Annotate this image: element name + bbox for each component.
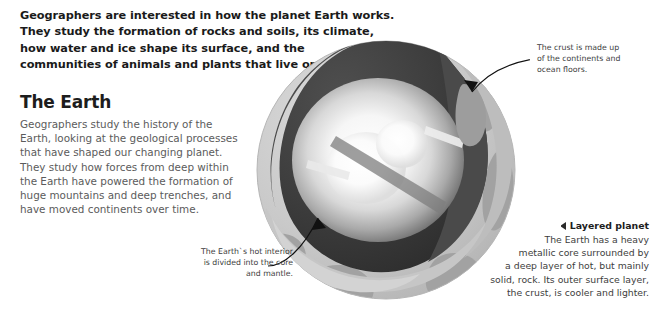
layered-planet-line: solid, rock. Its outer surface layer, bbox=[452, 273, 649, 286]
body-line: huge mountains and deep trenches, and bbox=[20, 188, 235, 202]
section-body-text: Geographers study the history of the Ear… bbox=[20, 117, 235, 216]
body-line: They study how forces from deep within bbox=[20, 160, 235, 174]
body-line: the Earth have powered the formation of bbox=[20, 174, 235, 188]
layered-planet-heading: Layered planet bbox=[452, 219, 649, 232]
callout-crust-line: The crust is made up bbox=[537, 42, 645, 53]
callout-crust-line: of the continents and bbox=[537, 53, 645, 64]
layered-planet-block: Layered planet The Earth has a heavy met… bbox=[452, 219, 649, 299]
callout-interior-line: is divided into the core bbox=[168, 257, 293, 268]
triangle-left-icon bbox=[560, 222, 566, 230]
layered-planet-line: a deep layer of hot, but mainly bbox=[452, 259, 649, 272]
layered-planet-line: metallic core surrounded by bbox=[452, 246, 649, 259]
layered-planet-line: the crust, is cooler and lighter. bbox=[452, 286, 649, 299]
body-line: Geographers study the history of the bbox=[20, 117, 235, 131]
layered-planet-line: The Earth has a heavy bbox=[452, 233, 649, 246]
body-line: that have shaped our changing planet. bbox=[20, 145, 235, 159]
inner-core-highlight bbox=[376, 120, 428, 168]
callout-interior-line: and mantle. bbox=[168, 268, 293, 279]
callout-interior: The Earth`s hot interior is divided into… bbox=[168, 246, 293, 279]
callout-crust-line: ocean floors. bbox=[537, 64, 645, 75]
layered-planet-body: The Earth has a heavy metallic core surr… bbox=[452, 233, 649, 299]
layered-planet-heading-label: Layered planet bbox=[570, 219, 649, 232]
earth-infographic-page: Geographers are interested in how the pl… bbox=[0, 0, 652, 316]
callout-interior-line: The Earth`s hot interior bbox=[168, 246, 293, 257]
callout-crust: The crust is made up of the continents a… bbox=[537, 42, 645, 75]
body-line: Earth, looking at the geological process… bbox=[20, 131, 235, 145]
page-title: The Earth bbox=[20, 92, 111, 112]
body-line: have moved continents over time. bbox=[20, 202, 235, 216]
